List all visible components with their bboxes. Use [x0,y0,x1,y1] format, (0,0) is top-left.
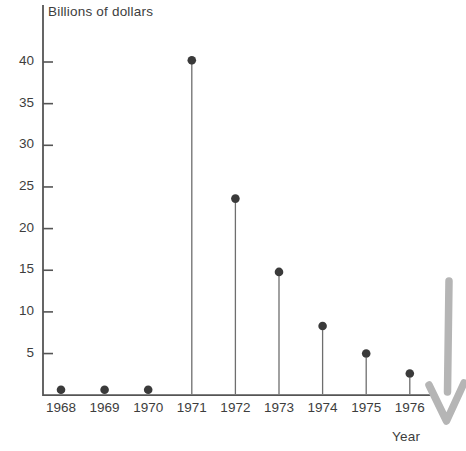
x-tick-label: 1972 [220,400,250,415]
x-tick-label: 1971 [177,400,207,415]
x-tick-label: 1969 [90,400,120,415]
data-point [57,385,66,394]
y-tick-label: 5 [8,345,34,360]
x-tick-label: 1968 [46,400,76,415]
y-tick-label: 35 [8,95,34,110]
y-tick-label: 25 [8,178,34,193]
data-point [406,369,415,378]
data-point [318,322,327,331]
y-tick-label: 40 [8,53,34,68]
x-tick-label: 1973 [264,400,294,415]
y-tick-label: 30 [8,136,34,151]
data-point [362,349,371,358]
x-tick-label: 1976 [395,400,425,415]
stem-lines [192,64,410,394]
chart-figure: Billions of dollars Year 510152025303540… [0,0,466,451]
data-point [275,268,284,277]
x-tick-label: 1975 [351,400,381,415]
down-arrow-annotation [429,281,464,421]
plot-area [0,0,466,451]
y-axis-ticks [43,62,53,354]
x-tick-label: 1974 [308,400,338,415]
data-point [100,385,109,394]
y-tick-label: 20 [8,220,34,235]
y-tick-label: 15 [8,261,34,276]
x-tick-label: 1970 [133,400,163,415]
y-tick-label: 10 [8,303,34,318]
data-point [188,56,197,65]
data-point [144,385,153,394]
data-point [231,194,240,203]
